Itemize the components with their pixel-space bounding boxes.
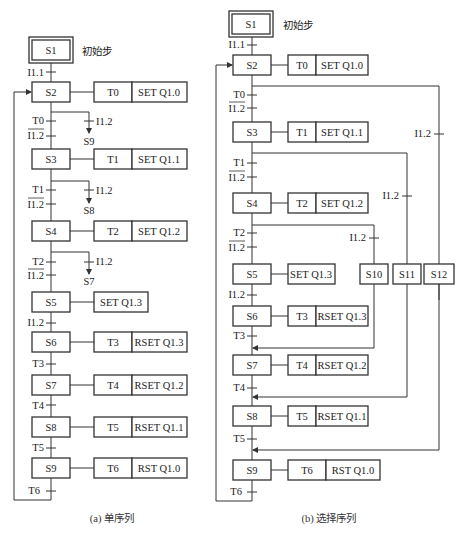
- svg-text:S3: S3: [246, 127, 257, 138]
- svg-text:I1.2: I1.2: [96, 116, 113, 127]
- svg-text:T1: T1: [296, 127, 308, 138]
- svg-text:T6: T6: [230, 486, 242, 497]
- svg-text:I1.2: I1.2: [27, 317, 44, 328]
- svg-text:T4: T4: [233, 382, 245, 393]
- svg-text:T5: T5: [296, 411, 308, 422]
- action-block-s3: T1 SET Q1.1: [94, 149, 187, 169]
- svg-text:T2: T2: [296, 198, 308, 209]
- step-s4: S4: [32, 221, 70, 241]
- step-s10: S10: [360, 264, 388, 284]
- step-s9: S9: [32, 458, 70, 478]
- svg-text:T4: T4: [32, 400, 44, 411]
- svg-text:I1.2: I1.2: [27, 199, 44, 210]
- svg-text:T1: T1: [32, 184, 44, 195]
- svg-text:T5: T5: [32, 442, 44, 453]
- action-block-s9: T6 RST Q1.0: [288, 460, 380, 480]
- step-s2: S2: [32, 82, 70, 102]
- svg-text:I1.2: I1.2: [228, 242, 245, 253]
- initial-step-label: 初始步: [82, 45, 112, 57]
- step-s3: S3: [32, 149, 70, 169]
- caption-b: (b) 选择序列: [302, 512, 357, 525]
- svg-text:S4: S4: [246, 198, 258, 209]
- svg-text:I1.2: I1.2: [27, 270, 44, 281]
- step-s7: S7: [32, 375, 70, 395]
- caption-a: (a) 单序列: [90, 512, 134, 525]
- step-s9: S9: [233, 460, 271, 480]
- step-s6: S6: [32, 332, 70, 352]
- svg-text:SET Q1.2: SET Q1.2: [138, 226, 180, 237]
- svg-text:T5: T5: [233, 433, 245, 444]
- svg-text:S8: S8: [83, 205, 94, 216]
- svg-text:SET Q1.0: SET Q1.0: [321, 60, 363, 71]
- action-block-s5: SET Q1.3: [288, 264, 335, 284]
- svg-text:I1.1: I1.1: [228, 39, 245, 50]
- svg-text:T6: T6: [107, 463, 119, 474]
- sfc-diagram-canvas: S1 初始步 I1.1 S2 T0 SET Q1.0 I1.2 S9 T0 I1…: [0, 0, 465, 542]
- svg-text:S7: S7: [83, 276, 94, 287]
- step-s11: S11: [393, 264, 421, 284]
- svg-text:T0: T0: [296, 60, 308, 71]
- svg-text:S9: S9: [83, 136, 94, 147]
- svg-text:S7: S7: [45, 380, 56, 391]
- transition-i1.1: I1.1: [27, 67, 44, 78]
- svg-text:S2: S2: [45, 87, 56, 98]
- action-block-s9: T6 RST Q1.0: [94, 458, 187, 478]
- svg-text:S12: S12: [431, 269, 447, 280]
- action-block-s4: T2 SET Q1.2: [94, 221, 187, 241]
- diagram-a-single-sequence: S1 初始步 I1.1 S2 T0 SET Q1.0 I1.2 S9 T0 I1…: [14, 37, 187, 525]
- svg-text:T3: T3: [296, 311, 308, 322]
- svg-text:I1.2: I1.2: [96, 256, 113, 267]
- svg-text:RSET Q1.2: RSET Q1.2: [135, 380, 184, 391]
- svg-text:T0: T0: [32, 115, 44, 126]
- svg-text:T4: T4: [107, 380, 119, 391]
- svg-text:S9: S9: [45, 463, 56, 474]
- svg-text:SET Q1.1: SET Q1.1: [138, 154, 180, 165]
- svg-text:S6: S6: [45, 337, 56, 348]
- svg-text:S3: S3: [45, 154, 56, 165]
- svg-text:S8: S8: [246, 411, 257, 422]
- action-block-s6: T3 RSET Q1.3: [94, 332, 187, 352]
- step-s1-initial: S1: [229, 11, 273, 37]
- action-block-s4: T2 SET Q1.2: [288, 193, 368, 213]
- svg-text:SET Q1.2: SET Q1.2: [321, 198, 363, 209]
- step-s5: S5: [32, 292, 70, 312]
- svg-text:RSET Q1.1: RSET Q1.1: [135, 422, 184, 433]
- svg-text:I1.2: I1.2: [382, 190, 399, 201]
- step-s8: S8: [233, 406, 271, 426]
- svg-text:T1: T1: [233, 157, 245, 168]
- step-s12: S12: [424, 264, 454, 284]
- svg-text:RST Q1.0: RST Q1.0: [138, 463, 180, 474]
- svg-text:T3: T3: [32, 358, 44, 369]
- svg-text:S9: S9: [246, 465, 257, 476]
- action-block-s8: T5 RSET Q1.1: [288, 406, 368, 426]
- svg-text:SET Q1.1: SET Q1.1: [321, 127, 363, 138]
- svg-text:T2: T2: [107, 226, 119, 237]
- svg-text:I1.2: I1.2: [414, 128, 431, 139]
- svg-text:T2: T2: [233, 227, 245, 238]
- svg-text:T6: T6: [301, 465, 313, 476]
- svg-text:S6: S6: [246, 311, 257, 322]
- svg-text:T3: T3: [107, 337, 119, 348]
- svg-text:T3: T3: [233, 330, 245, 341]
- action-block-s2: T0 SET Q1.0: [94, 82, 187, 102]
- svg-text:S5: S5: [45, 297, 56, 308]
- svg-text:RSET Q1.3: RSET Q1.3: [318, 311, 367, 322]
- diagram-b-selection-sequence: S1 初始步 I1.1 S2 T0 SET Q1.0 T0 I1.2 I1.2: [216, 11, 454, 525]
- svg-text:S4: S4: [45, 226, 57, 237]
- action-block-s5: SET Q1.3: [94, 292, 148, 312]
- svg-text:S11: S11: [399, 269, 415, 280]
- initial-step-label: 初始步: [283, 19, 313, 31]
- svg-text:T5: T5: [107, 422, 119, 433]
- svg-text:S10: S10: [366, 269, 382, 280]
- svg-text:S7: S7: [246, 360, 257, 371]
- svg-text:SET Q1.3: SET Q1.3: [100, 297, 142, 308]
- svg-text:RSET Q1.3: RSET Q1.3: [135, 337, 184, 348]
- step-s7: S7: [233, 355, 271, 375]
- step-s4: S4: [233, 193, 271, 213]
- svg-text:T4: T4: [296, 360, 308, 371]
- svg-text:RST Q1.0: RST Q1.0: [332, 465, 374, 476]
- svg-text:T2: T2: [32, 256, 44, 267]
- svg-text:T0: T0: [233, 89, 245, 100]
- svg-text:I1.2: I1.2: [349, 232, 366, 243]
- action-block-s2: T0 SET Q1.0: [288, 55, 368, 75]
